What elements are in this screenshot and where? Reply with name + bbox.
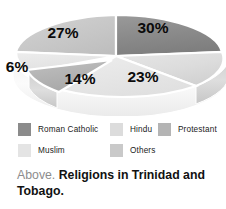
legend-swatch-others [110,144,123,157]
figure-religions-pie: 27% 30% 23% 14% 6% Roman Catholic Hindu … [0,0,226,209]
pie-chart-svg: 27% 30% 23% 14% 6% [0,0,226,116]
legend: Roman Catholic Hindu Protestant Muslim O… [0,117,226,163]
pie-label-14: 14% [64,70,95,87]
legend-label-others: Others [130,146,155,155]
legend-swatch-hindu [110,123,123,136]
legend-swatch-roman-catholic [18,123,31,136]
legend-label-muslim: Muslim [38,146,65,155]
legend-swatch-muslim [18,144,31,157]
legend-label-hindu: Hindu [130,125,152,134]
legend-item-hindu[interactable]: Hindu [110,119,152,139]
pie-label-23: 23% [127,68,158,85]
legend-row: Roman Catholic Hindu Protestant [0,119,226,139]
legend-item-others[interactable]: Others [110,140,155,160]
caption-prefix: Above. [17,168,55,182]
legend-item-roman-catholic[interactable]: Roman Catholic [18,119,98,139]
pie-slice-roman-catholic[interactable] [116,15,222,56]
legend-label-protestant: Protestant [178,125,217,134]
pie-label-27: 27% [47,24,78,41]
figure-caption: Above. Religions in Trinidad and Tobago. [17,168,217,199]
pie-chart: 27% 30% 23% 14% 6% [0,0,226,116]
pie-label-6: 6% [6,58,29,75]
legend-swatch-protestant [158,123,171,136]
legend-row: Muslim Others [0,140,226,160]
legend-item-protestant[interactable]: Protestant [158,119,217,139]
legend-item-muslim[interactable]: Muslim [18,140,65,160]
legend-label-roman-catholic: Roman Catholic [38,125,98,134]
pie-label-30: 30% [137,19,168,36]
